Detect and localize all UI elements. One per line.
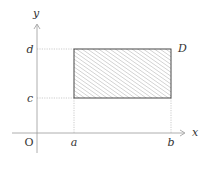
region-d (74, 49, 171, 98)
region-hatch (74, 49, 171, 98)
diagram-svg: y x O a b d c D (0, 0, 211, 169)
diagram-canvas: y x O a b d c D (0, 0, 211, 169)
tick-label-c: c (27, 92, 33, 105)
y-axis-label: y (32, 7, 40, 20)
tick-label-b: b (167, 136, 174, 149)
tick-label-a: a (71, 136, 78, 149)
region-label: D (177, 42, 187, 55)
x-axis-label: x (192, 126, 199, 139)
origin-label: O (24, 136, 33, 149)
tick-label-d: d (26, 43, 33, 56)
